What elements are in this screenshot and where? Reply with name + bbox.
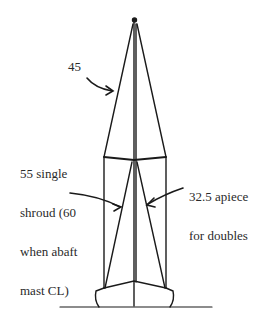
label-line: 32.5 apiece xyxy=(189,190,248,203)
arrowhead-lower-single xyxy=(113,204,121,211)
arrow-lower-single xyxy=(70,193,120,207)
label-line: when abaft xyxy=(20,245,77,258)
upper-shroud-right xyxy=(137,24,166,157)
label-line: shroud (60 xyxy=(20,206,77,219)
lower-shroud-right xyxy=(137,162,165,288)
label-line: mast CL) xyxy=(20,284,77,297)
label-upper-shroud: 45 xyxy=(68,60,81,73)
masthead xyxy=(133,18,137,22)
label-line: 55 single xyxy=(20,167,77,180)
arrow-upper-shroud xyxy=(87,78,112,91)
label-lower-double: 32.5 apiece for doubles xyxy=(189,164,248,255)
deck-line xyxy=(104,281,166,288)
lower-shroud-left xyxy=(105,162,132,288)
label-lower-single: 55 single shroud (60 when abaft mast CL) xyxy=(20,141,77,310)
label-line: for doubles xyxy=(189,229,248,242)
spreaders xyxy=(104,157,166,160)
